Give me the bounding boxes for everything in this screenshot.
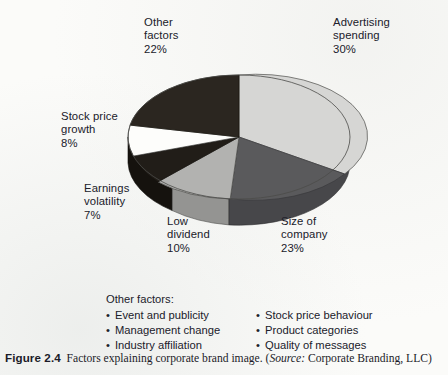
- legend-item-label: Quality of messages: [265, 339, 366, 351]
- caption-source-value: Corporate Branding, LLC): [305, 352, 432, 365]
- pie-chart: Advertising spending 30% Other factors 2…: [0, 0, 448, 268]
- bullet-icon: •: [256, 323, 260, 338]
- pie-label-other-factors: Other factors 22%: [144, 16, 179, 56]
- pie-label-line-1: Size of: [281, 215, 328, 228]
- figure-caption: Figure 2.4 Factors explaining corporate …: [5, 351, 445, 366]
- bullet-icon: •: [256, 308, 260, 323]
- figure-container: Advertising spending 30% Other factors 2…: [0, 0, 448, 375]
- legend-column-right: •Stock price behaviour •Product categori…: [256, 308, 373, 354]
- figure-number: Figure 2.4: [5, 351, 61, 364]
- pie-label-line-1: Earnings: [84, 182, 129, 195]
- pie-label-value: 10%: [167, 242, 210, 255]
- pie-label-value: 8%: [61, 137, 118, 150]
- legend-item-label: Event and publicity: [115, 309, 209, 321]
- legend-item-label: Management change: [115, 324, 220, 336]
- pie-label-size-of-company: Size of company 23%: [281, 215, 328, 255]
- pie-label-line-1: Advertising: [333, 16, 390, 29]
- pie-label-line-1: Low: [167, 215, 210, 228]
- pie-label-value: 22%: [144, 43, 179, 56]
- legend-item: •Stock price behaviour: [256, 308, 373, 323]
- caption-source-label: Source:: [269, 352, 305, 365]
- pie-label-line-2: spending: [333, 29, 390, 42]
- legend-columns: •Event and publicity •Management change …: [106, 308, 373, 354]
- other-factors-legend: Other factors: •Event and publicity •Man…: [106, 292, 373, 353]
- legend-item-label: Stock price behaviour: [265, 309, 373, 321]
- legend-column-left: •Event and publicity •Management change …: [106, 308, 228, 354]
- legend-item-label: Industry affiliation: [115, 339, 202, 351]
- caption-text: Factors explaining corporate brand image…: [67, 352, 270, 365]
- pie-label-value: 7%: [84, 209, 129, 222]
- bullet-icon: •: [106, 308, 110, 323]
- legend-item-label: Product categories: [265, 324, 358, 336]
- legend-item: •Management change: [106, 323, 228, 338]
- pie-label-line-2: factors: [144, 29, 179, 42]
- pie-label-line-2: volatility: [84, 195, 129, 208]
- pie-label-advertising-spending: Advertising spending 30%: [333, 16, 390, 56]
- pie-label-line-2: growth: [61, 123, 118, 136]
- pie-label-line-2: company: [281, 228, 328, 241]
- pie-label-line-1: Stock price: [61, 110, 118, 123]
- legend-item: •Product categories: [256, 323, 373, 338]
- legend-title: Other factors:: [106, 292, 373, 307]
- pie-label-stock-price-growth: Stock price growth 8%: [61, 110, 118, 150]
- pie-top-face: [128, 74, 368, 200]
- pie-label-value: 30%: [333, 43, 390, 56]
- bullet-icon: •: [106, 323, 110, 338]
- pie-label-line-2: dividend: [167, 228, 210, 241]
- pie-label-earnings-volatility: Earnings volatility 7%: [84, 182, 129, 222]
- pie-label-line-1: Other: [144, 16, 179, 29]
- pie-label-low-dividend: Low dividend 10%: [167, 215, 210, 255]
- legend-item: •Event and publicity: [106, 308, 228, 323]
- pie-label-value: 23%: [281, 242, 328, 255]
